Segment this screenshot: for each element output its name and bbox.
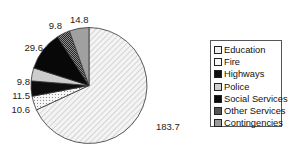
legend-swatch-icon (214, 119, 222, 127)
legend-item-contingencies: Contingencies (214, 117, 281, 129)
legend: Education Fire Highways Police Social Se… (210, 40, 282, 127)
legend-item-other-services: Other Services (214, 105, 281, 117)
legend-swatch-icon (214, 83, 222, 91)
legend-label: Police (224, 82, 249, 92)
legend-item-police: Police (214, 81, 281, 93)
legend-label: Highways (224, 69, 264, 79)
data-label: 14.8 (70, 14, 89, 25)
legend-swatch-icon (214, 58, 222, 66)
data-label: 183.7 (156, 121, 180, 132)
legend-label: Education (224, 45, 265, 55)
data-label: 9.8 (17, 76, 30, 87)
legend-label: Fire (224, 57, 240, 67)
legend-label: Contingencies (224, 118, 283, 128)
legend-label: Other Services (224, 106, 285, 116)
data-label: 29.6 (25, 42, 44, 53)
legend-item-highways: Highways (214, 68, 281, 80)
legend-swatch-icon (214, 107, 222, 115)
data-label: 11.5 (12, 90, 30, 101)
legend-swatch-icon (214, 70, 222, 78)
legend-item-education: Education (214, 44, 281, 56)
legend-label: Social Services (224, 94, 288, 104)
legend-swatch-icon (214, 46, 222, 54)
legend-item-social-services: Social Services (214, 93, 281, 105)
data-label: 9.8 (49, 20, 62, 31)
pie-slices (31, 28, 147, 144)
legend-item-fire: Fire (214, 56, 281, 68)
data-label: 10.6 (12, 104, 31, 115)
legend-swatch-icon (214, 95, 222, 103)
